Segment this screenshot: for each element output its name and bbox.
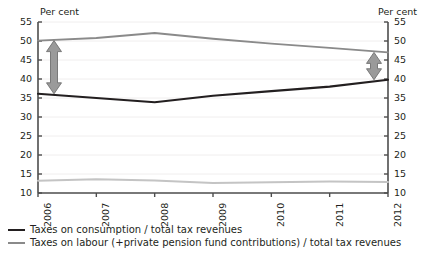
legend-item-consumption: Taxes on consumption / total tax revenue… (8, 224, 401, 237)
right-ytick-15: 15 (394, 169, 418, 179)
right-ytick-40: 40 (394, 74, 418, 84)
right-ytick-10: 10 (394, 188, 418, 198)
right-ytick-35: 35 (394, 93, 418, 103)
right-ytick-55: 55 (394, 17, 418, 27)
legend-label-consumption: Taxes on consumption / total tax revenue… (30, 224, 242, 237)
left-ytick-30: 30 (8, 112, 32, 122)
right-ytick-45: 45 (394, 55, 418, 65)
right-ytick-30: 30 (394, 112, 418, 122)
legend-swatch-consumption (8, 229, 25, 231)
left-ytick-10: 10 (8, 188, 32, 198)
legend-label-labour: Taxes on labour (+private pension fund c… (30, 237, 401, 250)
right-ytick-25: 25 (394, 131, 418, 141)
left-ytick-15: 15 (8, 169, 32, 179)
left-ytick-25: 25 (8, 131, 32, 141)
left-ytick-45: 45 (8, 55, 32, 65)
chart-plot-area (0, 0, 426, 256)
left-ytick-55: 55 (8, 17, 32, 27)
series-lines (38, 33, 388, 183)
chart-container: Per cent Per cent 55504540353025201510 5… (0, 0, 426, 256)
left-ytick-50: 50 (8, 36, 32, 46)
legend-item-labour: Taxes on labour (+private pension fund c… (8, 237, 401, 250)
right-ytick-50: 50 (394, 36, 418, 46)
legend-swatch-labour (8, 242, 25, 244)
chart-legend: Taxes on consumption / total tax revenue… (8, 224, 401, 249)
left-ytick-20: 20 (8, 150, 32, 160)
left-ytick-40: 40 (8, 74, 32, 84)
left-ytick-35: 35 (8, 93, 32, 103)
right-ytick-20: 20 (394, 150, 418, 160)
